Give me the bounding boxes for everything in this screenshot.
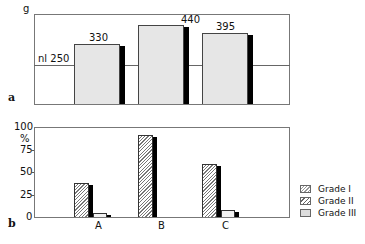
y-axis-unit-g: g xyxy=(23,4,29,14)
bar-c xyxy=(202,33,248,104)
x-label-a: A xyxy=(95,221,102,231)
bar-c-grade-i xyxy=(202,164,217,217)
panel-b-x-axis xyxy=(34,217,290,218)
panel-b-label: b xyxy=(8,219,16,229)
y-axis-unit-percent: % xyxy=(20,134,30,144)
bar-c-grade-ii xyxy=(221,210,235,217)
legend-label-grade-ii: Grade II xyxy=(318,196,354,206)
legend-swatch-grade-ii xyxy=(300,197,311,205)
y-tick-0: 0 xyxy=(26,212,32,222)
bar-b-grade-i-shadow xyxy=(153,137,157,217)
panel-b-right-border xyxy=(289,127,290,218)
x-label-c: C xyxy=(222,221,229,231)
x-label-b: B xyxy=(158,221,165,231)
legend-label-grade-i: Grade I xyxy=(318,184,351,194)
legend-swatch-grade-i xyxy=(300,185,311,193)
bar-c-shadow xyxy=(248,35,253,104)
bar-a-shadow xyxy=(120,46,125,104)
panel-b-top-border xyxy=(34,127,290,128)
panel-a-label: a xyxy=(8,93,15,103)
bar-a-grade-ii-shadow xyxy=(107,215,111,217)
tick-mark xyxy=(31,172,34,173)
panel-b-y-axis xyxy=(34,127,35,218)
reference-line-label: nl 250 xyxy=(38,54,69,64)
bar-c-value: 395 xyxy=(216,22,235,32)
tick-mark xyxy=(31,195,34,196)
bar-b xyxy=(138,25,184,104)
bar-c-grade-ii-shadow xyxy=(235,212,239,217)
bar-a-grade-ii xyxy=(93,213,107,217)
legend-swatch-grade-iii xyxy=(300,209,311,217)
bar-b-grade-i xyxy=(138,135,153,217)
bar-a xyxy=(74,44,120,104)
tick-mark xyxy=(31,150,34,151)
y-tick-100: 100 xyxy=(14,122,33,132)
legend-label-grade-iii: Grade III xyxy=(318,208,356,218)
bar-a-value: 330 xyxy=(89,33,108,43)
bar-b-value: 440 xyxy=(181,15,200,25)
bar-b-shadow xyxy=(184,27,189,104)
bar-a-grade-i xyxy=(74,183,89,217)
